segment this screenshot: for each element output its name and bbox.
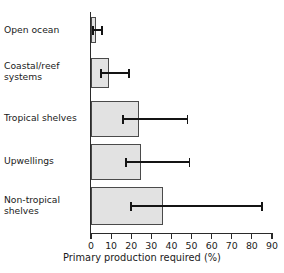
error-bar-line (131, 205, 262, 207)
x-tick-label-80: 80 (246, 240, 258, 251)
error-bar-cap-low (100, 69, 102, 78)
x-tick-90 (271, 234, 272, 239)
error-bar-cap-low (130, 202, 132, 211)
x-tick-label-50: 50 (186, 240, 198, 251)
chart-container: 0102030405060708090 Open oceanCoastal/re… (0, 0, 284, 273)
x-tick-30 (151, 234, 152, 239)
error-bar-cap-high (187, 115, 189, 124)
x-tick-label-40: 40 (165, 240, 177, 251)
x-tick-label-70: 70 (226, 240, 238, 251)
x-tick-40 (171, 234, 172, 239)
x-tick-10 (111, 234, 112, 239)
x-tick-label-60: 60 (206, 240, 218, 251)
x-tick-60 (211, 234, 212, 239)
category-label: Non-tropical shelves (4, 194, 86, 216)
category-label: Upwellings (4, 155, 86, 166)
x-tick-label-20: 20 (125, 240, 137, 251)
x-axis-line (90, 233, 273, 234)
x-tick-80 (251, 234, 252, 239)
error-bar-cap-low (125, 158, 127, 167)
x-tick-label-0: 0 (88, 240, 94, 251)
error-bar-line (123, 118, 187, 120)
x-tick-label-90: 90 (266, 240, 278, 251)
error-bar-cap-low (122, 115, 124, 124)
error-bar-cap-high (128, 69, 130, 78)
x-tick-label-10: 10 (105, 240, 117, 251)
x-axis-title: Primary production required (%) (0, 252, 284, 263)
x-tick-label-30: 30 (145, 240, 157, 251)
error-bar-cap-high (101, 26, 103, 35)
error-bar-cap-high (261, 202, 263, 211)
category-label: Open ocean (4, 24, 86, 35)
x-tick-20 (131, 234, 132, 239)
plot-area: 0102030405060708090 Open oceanCoastal/re… (0, 0, 284, 240)
x-tick-50 (191, 234, 192, 239)
error-bar-cap-low (92, 26, 94, 35)
error-bar-line (126, 161, 189, 163)
x-tick-0 (90, 234, 91, 239)
error-bar-line (101, 72, 129, 74)
category-label: Tropical shelves (4, 112, 86, 123)
error-bar-cap-high (189, 158, 191, 167)
category-label: Coastal/reef systems (4, 60, 86, 82)
x-tick-70 (231, 234, 232, 239)
